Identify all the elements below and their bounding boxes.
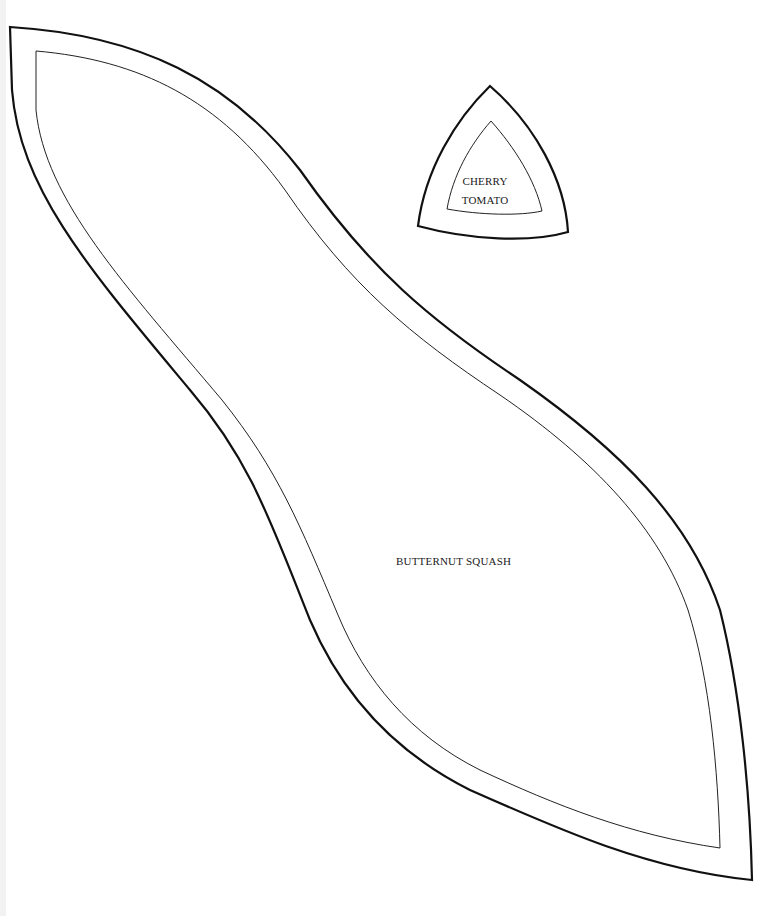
template-canvas — [0, 0, 771, 916]
cherry-tomato-label-line1: CHERRY — [450, 172, 520, 191]
cherry-tomato-label: CHERRY TOMATO — [450, 172, 520, 210]
butternut-squash-outer-outline — [10, 27, 752, 880]
cherry-tomato-label-line2: TOMATO — [450, 191, 520, 210]
butternut-squash-label: BUTTERNUT SQUASH — [396, 552, 511, 571]
butternut-squash-inner-outline — [36, 51, 720, 848]
cherry-tomato-outer-outline — [418, 86, 568, 239]
